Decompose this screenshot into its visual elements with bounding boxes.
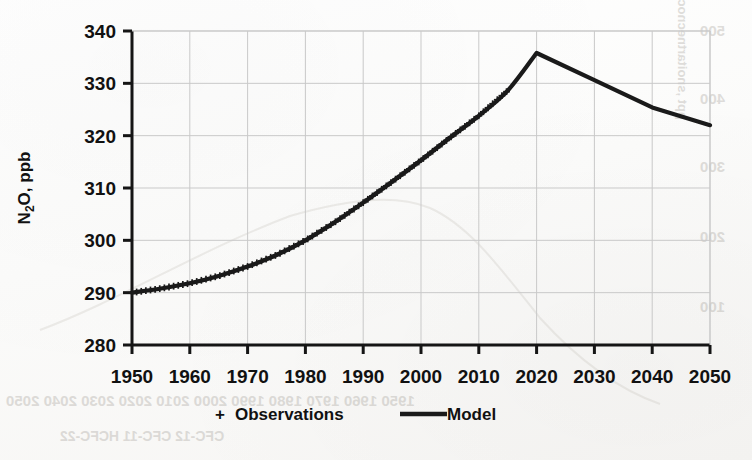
y-axis-title: N2O, ppb <box>15 152 37 225</box>
legend-item-model: Model <box>400 405 496 424</box>
x-axis-tick-label: 2020 <box>515 366 557 387</box>
n2o-concentration-chart: 280290300310320330340 195019601970198019… <box>0 0 752 460</box>
x-axis-tick-label: 2050 <box>689 366 731 387</box>
y-axis-title-pre: N <box>15 212 34 224</box>
gridlines <box>132 31 710 345</box>
legend-item-observations: + Observations <box>215 405 344 424</box>
svg-text:N2O, ppb: N2O, ppb <box>15 152 37 225</box>
y-axis-tick-label: 340 <box>84 21 116 42</box>
legend-label-model: Model <box>447 405 496 424</box>
x-axis-tick-label: 2010 <box>458 366 500 387</box>
y-axis-tick-label: 300 <box>84 230 116 251</box>
chart-legend: + Observations Model <box>215 405 496 424</box>
y-axis-tick-label: 290 <box>84 283 116 304</box>
plus-marker-icon: + <box>215 405 225 424</box>
x-axis-tick-label: 2030 <box>573 366 615 387</box>
x-axis-tick-label: 1970 <box>226 366 268 387</box>
x-axis-tick-labels: 1950196019701980199020002010202020302040… <box>111 366 731 387</box>
y-axis-tick-label: 280 <box>84 335 116 356</box>
x-axis-tick-label: 2000 <box>400 366 442 387</box>
chart-svg: 280290300310320330340 195019601970198019… <box>0 0 752 460</box>
axis-ticks <box>123 31 710 354</box>
x-axis-tick-label: 1950 <box>111 366 153 387</box>
y-axis-tick-label: 310 <box>84 178 116 199</box>
x-axis-tick-label: 1960 <box>169 366 211 387</box>
x-axis-tick-label: 1980 <box>284 366 326 387</box>
x-axis-tick-label: 2040 <box>631 366 673 387</box>
legend-label-observations: Observations <box>235 405 344 424</box>
y-axis-title-post: O, ppb <box>15 152 34 206</box>
y-axis-tick-label: 320 <box>84 126 116 147</box>
x-axis-tick-label: 1990 <box>342 366 384 387</box>
series-markers-observations <box>129 88 510 296</box>
y-axis-tick-labels: 280290300310320330340 <box>84 21 116 356</box>
y-axis-tick-label: 330 <box>84 73 116 94</box>
